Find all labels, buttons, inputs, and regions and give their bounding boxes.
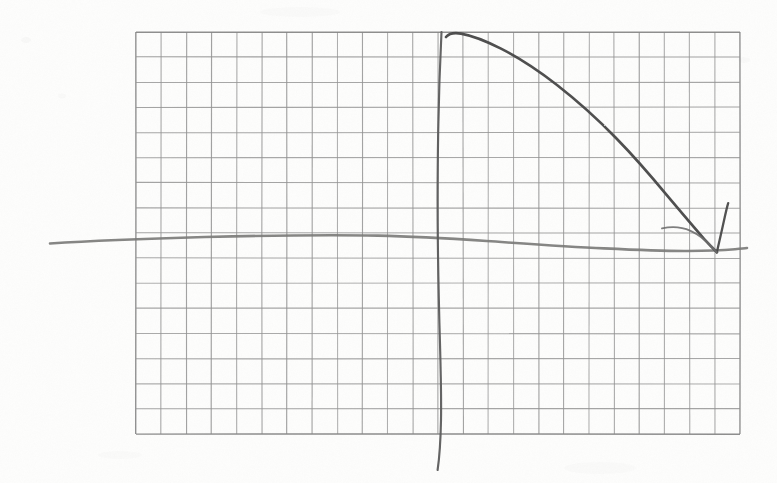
- paper-blotch: [564, 462, 636, 474]
- paper-blotch: [98, 451, 142, 459]
- paper-grain-texture: [0, 0, 777, 483]
- graph-paper-sketch: [0, 0, 777, 483]
- paper-blotch: [21, 37, 31, 43]
- paper-blotch: [260, 7, 340, 17]
- sketch-canvas: [0, 0, 777, 483]
- paper-blotch: [58, 94, 66, 99]
- paper-blotch: [738, 57, 750, 63]
